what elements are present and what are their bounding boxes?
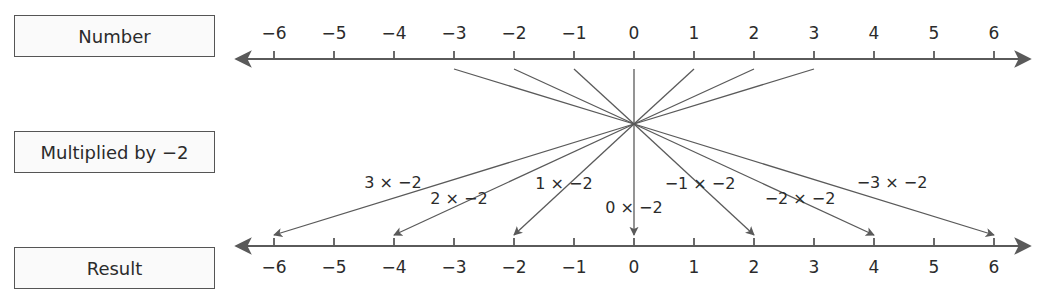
tick-label: −4 (381, 23, 406, 43)
mapping-line-in (514, 69, 634, 124)
mapping-line-in (574, 69, 634, 124)
tick-label: 4 (869, 257, 880, 277)
tick-label: −2 (501, 257, 526, 277)
tick-label: −1 (561, 23, 586, 43)
mapping-label: 0 × −2 (605, 198, 662, 217)
mapping-label: 1 × −2 (535, 174, 592, 193)
tick-label: 6 (989, 257, 1000, 277)
mapping-line-in (634, 69, 754, 124)
tick-label: −2 (501, 23, 526, 43)
mapping-label: −3 × −2 (857, 173, 928, 192)
number-line-bottom: −6−5−4−3−2−10123456 (236, 238, 1030, 277)
tick-label: 2 (749, 23, 760, 43)
tick-label: 3 (809, 23, 820, 43)
tick-label: 1 (689, 23, 700, 43)
mapping-arrow-out (394, 124, 634, 235)
tick-label: 6 (989, 23, 1000, 43)
tick-label: −5 (321, 23, 346, 43)
tick-label: 0 (629, 23, 640, 43)
mapping-label: 2 × −2 (430, 189, 487, 208)
tick-label: 2 (749, 257, 760, 277)
tick-label: 0 (629, 257, 640, 277)
multiplication-mapping-diagram: −6−5−4−3−2−10123456 −6−5−4−3−2−10123456 … (0, 0, 1054, 292)
tick-label: 5 (929, 23, 940, 43)
mapping-labels: 3 × −22 × −21 × −20 × −2−1 × −2−2 × −2−3… (364, 173, 927, 217)
tick-label: 4 (869, 23, 880, 43)
mapping-label: −1 × −2 (665, 174, 736, 193)
tick-label: −3 (441, 257, 466, 277)
mapping-line-in (454, 69, 634, 124)
tick-label: 3 (809, 257, 820, 277)
number-line-top: −6−5−4−3−2−10123456 (236, 23, 1030, 59)
tick-label: −6 (261, 257, 286, 277)
tick-label: −5 (321, 257, 346, 277)
mapping-line-in (634, 69, 694, 124)
mapping-label: −2 × −2 (765, 189, 836, 208)
tick-label: −6 (261, 23, 286, 43)
tick-label: −3 (441, 23, 466, 43)
mapping-line-in (634, 69, 814, 124)
tick-label: −4 (381, 257, 406, 277)
tick-label: 5 (929, 257, 940, 277)
mapping-label: 3 × −2 (364, 173, 421, 192)
tick-label: 1 (689, 257, 700, 277)
tick-label: −1 (561, 257, 586, 277)
